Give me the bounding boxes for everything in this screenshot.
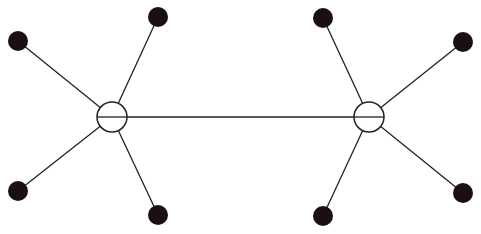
- spoke-edge: [18, 41, 112, 117]
- spoke-edge: [323, 117, 369, 216]
- leaf-node: [8, 181, 28, 201]
- leaf-node: [313, 206, 333, 226]
- leaf-node: [148, 205, 168, 225]
- spoke-edge: [369, 117, 463, 193]
- network-diagram: [0, 0, 481, 234]
- leaf-node: [453, 32, 473, 52]
- leaf-node: [313, 8, 333, 28]
- spoke-edge: [18, 117, 112, 191]
- hub-node: [97, 102, 127, 132]
- leaf-node: [148, 7, 168, 27]
- leaf-node: [453, 183, 473, 203]
- hub-node: [354, 102, 384, 132]
- spoke-edge: [369, 42, 463, 117]
- spoke-edge: [112, 117, 158, 215]
- spoke-edge: [112, 17, 158, 117]
- spoke-edge: [323, 18, 369, 117]
- leaf-node: [8, 31, 28, 51]
- edges-layer: [18, 17, 463, 216]
